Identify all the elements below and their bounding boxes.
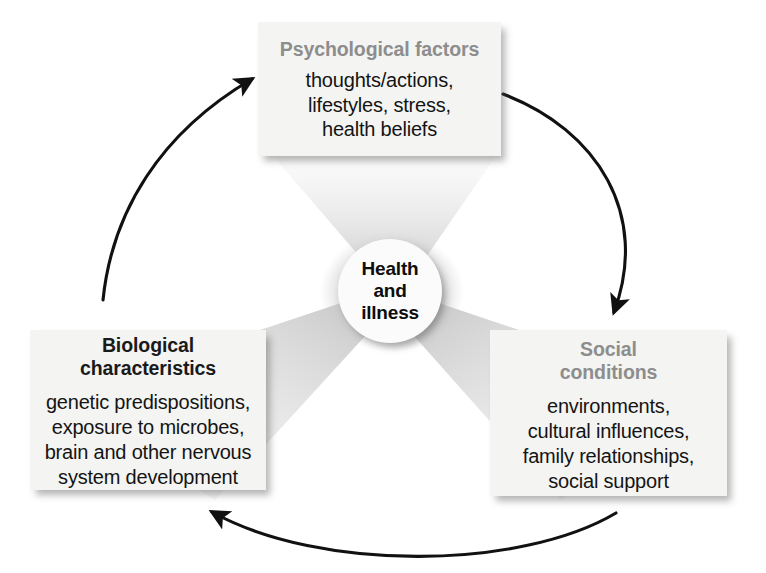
node-social-body: environments, cultural influences, famil… [523, 394, 694, 493]
node-biological-characteristics[interactable]: Biological characteristics genetic predi… [30, 330, 266, 490]
node-biological-body: genetic predispositions, exposure to mic… [45, 390, 252, 489]
node-social-title: Social conditions [560, 338, 658, 384]
node-biological-title: Biological characteristics [80, 334, 216, 380]
node-social-conditions[interactable]: Social conditions environments, cultural… [490, 330, 727, 496]
node-psychological-title: Psychological factors [280, 38, 479, 61]
center-hub-health-and-illness[interactable]: Health and illness [338, 239, 442, 343]
diagram-canvas: Psychological factors thoughts/actions, … [0, 0, 766, 573]
center-hub-label: Health and illness [361, 258, 419, 324]
node-psychological-body: thoughts/actions, lifestyles, stress, he… [306, 68, 454, 142]
node-psychological-factors[interactable]: Psychological factors thoughts/actions, … [258, 22, 501, 156]
